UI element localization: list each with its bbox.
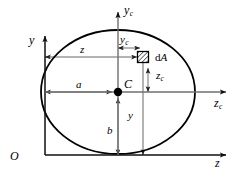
dimension-label-z: z <box>80 44 84 55</box>
origin-label: O <box>10 150 19 162</box>
centroid-label: C <box>124 78 132 90</box>
axis-label-zc-subscript: c <box>219 102 222 111</box>
axis-label-centroidal-zc: zc <box>214 97 222 110</box>
axis-label-yc-subscript: c <box>130 9 133 18</box>
area-element-dA <box>138 52 149 63</box>
dimension-label-zc: zc <box>156 70 164 82</box>
figure-canvas: y z yc zc O C dA a b z y yc zc <box>0 0 235 178</box>
dimension-label-zc-subscript: c <box>161 74 164 83</box>
axis-label-centroidal-yc: yc <box>124 4 133 17</box>
area-element-square <box>138 52 149 63</box>
ellipse-centroid-diagram <box>0 0 235 178</box>
dimension-label-yc-subscript: c <box>125 38 128 47</box>
dimension-label-yc: yc <box>120 34 129 46</box>
area-element-label: dA <box>155 52 167 63</box>
dimension-lines <box>45 48 148 155</box>
axis-label-outer-z: z <box>215 157 220 169</box>
axis-label-outer-y: y <box>29 34 34 46</box>
dimension-label-a: a <box>76 79 82 90</box>
area-element-label-symbol: A <box>161 51 168 63</box>
dimension-label-b: b <box>107 125 113 136</box>
dimension-label-y: y <box>128 110 133 121</box>
centroid-dot <box>114 88 122 96</box>
axes-group <box>45 12 226 155</box>
